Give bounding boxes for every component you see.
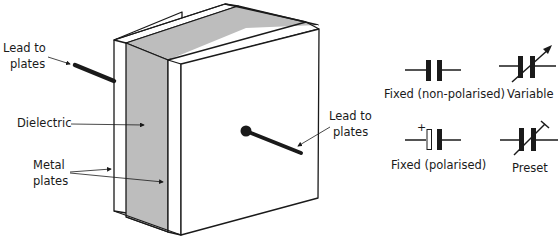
label-lead-left-line2: plates bbox=[10, 56, 45, 72]
label-fixed-polarised: Fixed (polarised) bbox=[391, 157, 486, 173]
symbol-fixed-non-polarised bbox=[405, 60, 461, 81]
symbol-preset bbox=[500, 121, 558, 155]
symbol-variable bbox=[499, 45, 556, 82]
label-dielectric: Dielectric bbox=[17, 115, 71, 131]
capacitor-diagram: Lead to plates Dielectric Metal plates L… bbox=[0, 0, 559, 238]
label-lead-right-line2: plates bbox=[333, 124, 368, 140]
label-metal-plates-line1: Metal bbox=[33, 157, 65, 173]
label-preset: Preset bbox=[512, 160, 548, 176]
capacitor-illustration bbox=[0, 0, 559, 238]
label-lead-right-line1: Lead to bbox=[329, 108, 372, 124]
symbol-fixed-polarised bbox=[405, 129, 461, 150]
label-metal-plates-line2: plates bbox=[33, 173, 68, 189]
left-lead bbox=[75, 65, 114, 81]
label-fixed-non-polarised: Fixed (non-polarised) bbox=[384, 86, 505, 102]
polarity-plus-marker: + bbox=[417, 120, 426, 136]
label-lead-left-line1: Lead to bbox=[3, 40, 46, 56]
label-variable: Variable bbox=[507, 86, 554, 102]
